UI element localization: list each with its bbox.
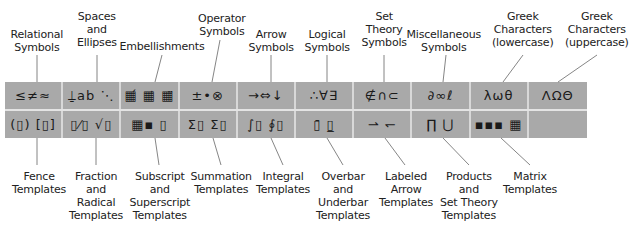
empty-palette-button [529,111,587,138]
callout-label: Spaces and Ellipses [77,10,117,49]
labeled-arrow-templates-palette-button[interactable]: ⇀ ↽ [354,111,412,138]
operator-symbols-palette-button[interactable]: ±•⊗ [180,82,238,109]
embellishments-palette-button[interactable]: ▦́ ▦̇ ▦̈ [121,82,179,109]
arrow-symbols-palette-button[interactable]: →⇔↓ [238,82,296,109]
callout-label: Operator Symbols [198,12,246,38]
greek-uppercase-palette-button[interactable]: ΛΩΘ [529,82,587,109]
callout-label: Fraction and Radical Templates [69,170,123,222]
callout-label: Labeled Arrow Templates [379,170,433,209]
set-theory-symbols-palette-button[interactable]: ∉∩⊂ [354,82,412,109]
overbar-underbar-templates-palette-button[interactable]: ▯̄ ▯̲ [296,111,354,138]
matrix-templates-palette-button[interactable]: ▪▪▪ ▦ [471,111,529,138]
callout-label: Subscript and Superscript Templates [130,170,191,222]
callout-label: Logical Symbols [305,28,350,54]
callout-label: Greek Characters (lowercase) [492,10,554,49]
logical-symbols-palette-button[interactable]: ∴∀∃ [296,82,354,109]
callout-label: Set Theory Symbols [362,10,407,49]
callout-label: Fence Templates [12,170,66,196]
miscellaneous-symbols-palette-button[interactable]: ∂∞ℓ [412,82,470,109]
spaces-and-ellipses-palette-button[interactable]: ⍊ab ⋱ [63,82,121,109]
callout-label: Summation Templates [191,170,252,196]
products-set-theory-templates-palette-button[interactable]: ∏ ⋃ [412,111,470,138]
summation-templates-palette-button[interactable]: Σ▯ Σ▯ [180,111,238,138]
callout-label: Overbar and Underbar Templates [316,170,370,222]
relational-symbols-palette-button[interactable]: ≤≠≈ [5,82,63,109]
fence-templates-palette-button[interactable]: (▯) [▯] [5,111,63,138]
callout-label: Products and Set Theory Templates [440,170,498,222]
symbol-palette-row: ≤≠≈⍊ab ⋱▦́ ▦̇ ▦̈±•⊗→⇔↓∴∀∃∉∩⊂∂∞ℓλωθΛΩΘ [5,82,587,111]
callout-label: Matrix Templates [503,170,557,196]
callout-label: Integral Templates [256,170,310,196]
subscript-superscript-templates-palette-button[interactable]: ▦▪ ▯ [121,111,179,138]
template-palette-row: (▯) [▯]▯⁄▯ √▯▦▪ ▯Σ▯ Σ▯∫▯ ∮▯▯̄ ▯̲⇀ ↽∏ ⋃▪▪… [5,111,587,138]
callout-label: Embellishments [120,40,205,53]
callout-label: Arrow Symbols [249,28,294,54]
equation-toolbar: ≤≠≈⍊ab ⋱▦́ ▦̇ ▦̈±•⊗→⇔↓∴∀∃∉∩⊂∂∞ℓλωθΛΩΘ (▯… [5,82,587,138]
callout-label: Greek Characters (uppercase) [565,10,629,49]
fraction-radical-templates-palette-button[interactable]: ▯⁄▯ √▯ [63,111,121,138]
callout-label: Relational Symbols [11,28,64,54]
greek-lowercase-palette-button[interactable]: λωθ [471,82,529,109]
callout-label: Miscellaneous Symbols [407,28,482,54]
integral-templates-palette-button[interactable]: ∫▯ ∮▯ [238,111,296,138]
